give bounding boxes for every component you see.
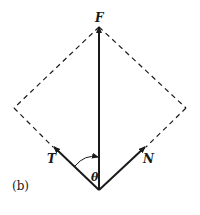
label-n: N — [142, 152, 155, 166]
angle-arc — [75, 156, 98, 166]
label-f: F — [94, 11, 105, 25]
label-theta: θ — [91, 171, 99, 184]
force-diagram: F T N θ (b) — [0, 0, 200, 215]
label-t: T — [47, 152, 57, 166]
panel-label: (b) — [12, 179, 29, 193]
vector-n — [99, 147, 145, 190]
